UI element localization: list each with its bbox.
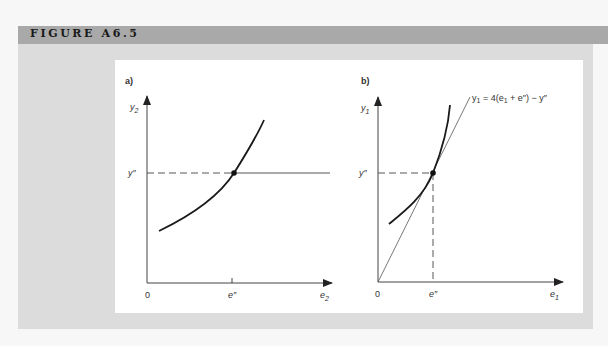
a-x-label: e2 bbox=[320, 290, 329, 302]
a-y-label: y2 bbox=[129, 102, 139, 114]
panel-a-label: a) bbox=[125, 76, 133, 86]
b-y-label: y1 bbox=[360, 103, 370, 115]
panel-b-label: b) bbox=[361, 76, 370, 86]
a-x-tick-label: e″ bbox=[228, 290, 237, 300]
b-tangency-point bbox=[430, 170, 436, 176]
b-y-tick-label: y″ bbox=[358, 168, 368, 178]
b-equation-label: y1 = 4(e1 + e″) − y″ bbox=[472, 93, 548, 104]
diagrams: a) y2 y″ 0 e″ e2 b) y1 y″ 0 bbox=[0, 0, 608, 346]
chart-a: a) y2 y″ 0 e″ e2 bbox=[125, 76, 332, 302]
b-x-tick-label: e″ bbox=[429, 289, 438, 299]
chart-b: b) y1 y″ 0 e″ e1 y1 = 4(e1 + e″) − y″ bbox=[358, 76, 563, 301]
b-origin-label: 0 bbox=[375, 289, 380, 299]
a-intersection-point bbox=[231, 170, 237, 176]
a-origin-label: 0 bbox=[145, 290, 150, 300]
b-x-label: e1 bbox=[550, 289, 559, 301]
a-y-tick-label: y″ bbox=[127, 168, 137, 178]
a-curve bbox=[159, 120, 264, 231]
b-curve bbox=[389, 105, 450, 224]
